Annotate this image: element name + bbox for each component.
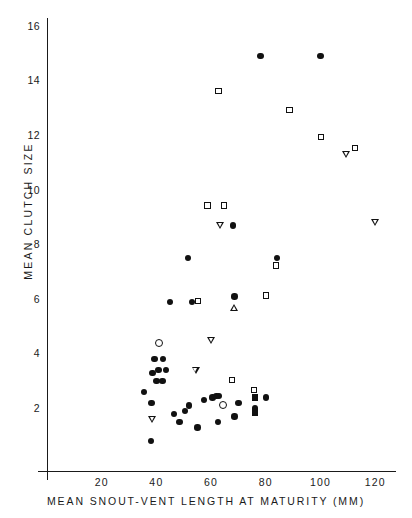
data-point-filled-circle [201, 397, 207, 403]
data-point-filled-circle [317, 53, 323, 59]
data-point-filled-circle [148, 438, 154, 444]
y-axis-line [47, 18, 48, 480]
data-point-open-square [286, 107, 292, 113]
data-point-filled-circle [194, 424, 200, 430]
data-point-open-tri-down [216, 222, 224, 229]
y-tick-label: 6 [14, 294, 40, 304]
data-point-filled-circle [235, 400, 241, 406]
scatter-plot-figure: 246810121416 20406080100120 MEAN CLUTCH … [0, 0, 412, 518]
data-point-filled-circle [163, 367, 169, 373]
x-tick-label: 100 [301, 476, 341, 488]
data-point-open-tri-down [207, 337, 215, 344]
data-point-open-tri-down [148, 416, 156, 423]
data-point-filled-circle [176, 419, 182, 425]
x-tick-label: 120 [355, 476, 395, 488]
data-point-filled-circle [159, 378, 165, 384]
data-point-open-square [215, 88, 221, 94]
data-point-filled-circle [148, 400, 154, 406]
data-point-open-square [273, 262, 279, 268]
data-point-open-square [204, 202, 210, 208]
data-point-filled-circle [171, 411, 177, 417]
data-point-open-tri-up [230, 304, 238, 311]
data-point-open-square [229, 377, 235, 383]
x-tick-label: 20 [82, 476, 122, 488]
data-point-filled-circle [216, 393, 222, 399]
y-tick-label: 16 [14, 21, 40, 31]
x-tick-label: 80 [246, 476, 286, 488]
data-point-filled-circle [263, 394, 269, 400]
data-point-filled-circle [186, 402, 192, 408]
y-axis-title: MEAN CLUTCH SIZE [22, 131, 34, 291]
data-point-filled-circle [231, 413, 237, 419]
x-tick-label: 60 [191, 476, 231, 488]
data-point-filled-square [252, 394, 258, 400]
x-axis-title: MEAN SNOUT-VENT LENGTH AT MATURITY (MM) [0, 495, 412, 507]
data-point-filled-circle [185, 255, 191, 261]
data-point-open-square [318, 134, 324, 140]
data-point-filled-circle [182, 408, 188, 414]
data-point-open-tri-down [192, 367, 200, 374]
x-axis-line [38, 471, 396, 472]
x-tick-label: 40 [136, 476, 176, 488]
data-point-filled-square [252, 409, 258, 415]
data-point-open-square [195, 298, 201, 304]
data-point-filled-circle [160, 356, 166, 362]
data-point-open-circle [219, 401, 227, 409]
y-tick-label: 2 [14, 403, 40, 413]
data-point-open-tri-down [342, 151, 350, 158]
data-point-open-square [251, 387, 257, 393]
data-point-filled-circle [231, 293, 237, 299]
data-point-filled-circle [141, 389, 147, 395]
data-point-filled-circle [151, 356, 157, 362]
data-point-open-circle [155, 339, 163, 347]
data-point-open-tri-down [371, 219, 379, 226]
data-point-filled-circle [167, 299, 173, 305]
data-point-filled-circle [230, 222, 236, 228]
data-point-filled-circle [215, 419, 221, 425]
y-tick-label: 4 [14, 348, 40, 358]
data-point-filled-circle [274, 255, 280, 261]
data-point-open-square [352, 145, 358, 151]
plot-area [0, 0, 412, 518]
data-point-filled-circle [257, 53, 263, 59]
data-point-open-square [263, 292, 269, 298]
y-tick-label: 14 [14, 75, 40, 85]
data-point-filled-circle [155, 367, 161, 373]
data-point-open-square [221, 202, 227, 208]
